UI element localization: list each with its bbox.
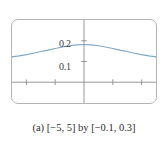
y-axis-label-0point2: 0.2 xyxy=(59,39,71,49)
figure-caption: (a) [−5, 5] by [−0.1, 0.3] xyxy=(0,122,168,134)
graphing-window xyxy=(11,19,157,104)
plot-canvas xyxy=(12,20,156,103)
figure-container: 0.2 0.1 (a) [−5, 5] by [−0.1, 0.3] xyxy=(0,0,168,143)
y-axis-label-0point1: 0.1 xyxy=(59,62,71,72)
